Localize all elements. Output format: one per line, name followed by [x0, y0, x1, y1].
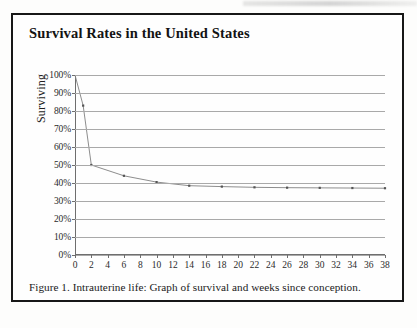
y-tick-label: 10%: [54, 232, 71, 242]
x-tick-mark: [189, 255, 190, 258]
y-gridline: [75, 93, 385, 94]
y-tick-label: 40%: [54, 178, 71, 188]
x-tick-label: 22: [250, 260, 260, 270]
y-tick-mark: [72, 165, 75, 166]
data-point-marker: [221, 186, 223, 188]
x-tick-mark: [124, 255, 125, 258]
y-gridline: [75, 201, 385, 202]
x-tick-mark: [369, 255, 370, 258]
x-tick-mark: [287, 255, 288, 258]
x-tick-label: 16: [201, 260, 211, 270]
y-tick-label: 0%: [59, 250, 71, 260]
y-tick-mark: [72, 75, 75, 76]
x-tick-mark: [385, 255, 386, 258]
x-tick-label: 36: [364, 260, 374, 270]
x-tick-mark: [271, 255, 272, 258]
y-tick-label: 80%: [54, 106, 71, 116]
x-tick-mark: [254, 255, 255, 258]
x-tick-label: 6: [122, 260, 127, 270]
y-tick-mark: [72, 219, 75, 220]
x-tick-label: 10: [152, 260, 162, 270]
x-tick-mark: [157, 255, 158, 258]
y-gridline: [75, 147, 385, 148]
x-tick-mark: [140, 255, 141, 258]
x-tick-label: 2: [89, 260, 94, 270]
x-tick-mark: [238, 255, 239, 258]
chart-area: Surviving 0%10%20%30%40%50%60%70%80%90%1…: [13, 15, 402, 300]
x-tick-label: 28: [299, 260, 309, 270]
figure-caption: Figure 1. Intrauterine life: Graph of su…: [29, 281, 361, 293]
y-tick-label: 100%: [49, 70, 71, 80]
x-tick-mark: [336, 255, 337, 258]
x-tick-mark: [206, 255, 207, 258]
x-tick-mark: [320, 255, 321, 258]
y-tick-label: 20%: [54, 214, 71, 224]
y-tick-mark: [72, 147, 75, 148]
y-tick-label: 50%: [54, 160, 71, 170]
x-tick-mark: [173, 255, 174, 258]
y-tick-label: 70%: [54, 124, 71, 134]
x-tick-label: 4: [105, 260, 110, 270]
data-point-marker: [286, 187, 288, 189]
y-gridline: [75, 129, 385, 130]
x-tick-mark: [75, 255, 76, 258]
figure-page: Survival Rates in the United States Surv…: [0, 0, 417, 328]
x-tick-mark: [91, 255, 92, 258]
data-point-marker: [188, 185, 190, 187]
data-point-marker: [123, 175, 125, 177]
data-point-marker: [319, 187, 321, 189]
y-tick-mark: [72, 111, 75, 112]
y-axis-title: Surviving: [34, 74, 49, 123]
y-tick-mark: [72, 201, 75, 202]
y-tick-mark: [72, 183, 75, 184]
x-tick-label: 38: [380, 260, 390, 270]
scan-artifact-top: [243, 1, 417, 6]
x-tick-label: 18: [217, 260, 227, 270]
series-line: [75, 75, 385, 188]
y-gridline: [75, 111, 385, 112]
x-tick-mark: [352, 255, 353, 258]
data-point-marker: [384, 187, 386, 189]
x-tick-label: 34: [348, 260, 358, 270]
x-tick-label: 30: [315, 260, 325, 270]
y-tick-mark: [72, 93, 75, 94]
y-gridline: [75, 219, 385, 220]
y-gridline: [75, 165, 385, 166]
x-tick-label: 26: [282, 260, 292, 270]
data-point-marker: [82, 105, 84, 107]
y-gridline: [75, 255, 385, 256]
data-point-marker: [351, 187, 353, 189]
x-tick-label: 24: [266, 260, 276, 270]
plot-area: 0%10%20%30%40%50%60%70%80%90%100%0246810…: [75, 75, 385, 255]
y-gridline: [75, 237, 385, 238]
x-tick-mark: [303, 255, 304, 258]
y-gridline: [75, 183, 385, 184]
x-tick-label: 8: [138, 260, 143, 270]
x-tick-label: 0: [73, 260, 78, 270]
x-tick-label: 14: [184, 260, 194, 270]
x-tick-label: 12: [168, 260, 178, 270]
y-tick-mark: [72, 237, 75, 238]
y-tick-label: 30%: [54, 196, 71, 206]
y-gridline: [75, 75, 385, 76]
x-tick-mark: [222, 255, 223, 258]
x-tick-label: 32: [331, 260, 341, 270]
x-tick-mark: [108, 255, 109, 258]
y-tick-mark: [72, 129, 75, 130]
y-tick-label: 60%: [54, 142, 71, 152]
data-point-marker: [253, 186, 255, 188]
y-tick-label: 90%: [54, 88, 71, 98]
x-tick-label: 20: [233, 260, 243, 270]
figure-frame: Survival Rates in the United States Surv…: [11, 13, 404, 302]
